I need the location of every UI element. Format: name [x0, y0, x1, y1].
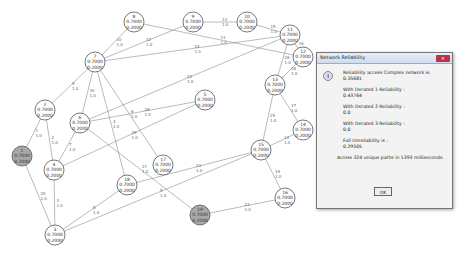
edge-weight-label: 1.0 [90, 93, 97, 98]
edge-weight-label: 1.0 [117, 42, 124, 47]
graph-node-8[interactable]: 80.70000.2000 [124, 12, 144, 32]
edge-weight-label: 1.0 [131, 114, 138, 119]
graph-node-2[interactable]: 20.70000.2000 [35, 100, 55, 120]
edge-weight-label: 1.0 [132, 135, 139, 140]
node-label: 14 [300, 122, 306, 127]
node-label: 6 [79, 115, 82, 120]
graph-edge[interactable]: 221.0 [80, 35, 290, 123]
graph-node-19[interactable]: 190.70000.2000 [190, 205, 210, 225]
node-label: 0.7000 [126, 19, 142, 24]
graph-node-7[interactable]: 70.70000.2000 [85, 52, 105, 72]
node-label: 12 [300, 49, 306, 54]
graph-node-16[interactable]: 160.70000.2000 [275, 188, 295, 208]
node-label: 0.2000 [46, 173, 62, 178]
graph-node-18[interactable]: 180.70000.2000 [117, 175, 137, 195]
edge-weight-label: 1.0 [187, 79, 194, 84]
summary-text: Across 324 unique paths in 1393 millisec… [337, 155, 448, 161]
graph-node-14[interactable]: 140.70000.2000 [293, 120, 313, 140]
edge-weight-label: 1.0 [52, 140, 59, 145]
graph-node-5[interactable]: 50.70000.2000 [195, 90, 215, 110]
node-label: 3 [54, 227, 57, 232]
node-label: 0.7000 [72, 120, 88, 125]
edge-weight-label: 1.0 [284, 140, 291, 145]
graph-node-11[interactable]: 110.70000.2000 [280, 25, 300, 45]
node-label: 0.2000 [295, 60, 311, 65]
node-label: 8 [133, 14, 136, 19]
info-icon: i [323, 71, 333, 81]
edge-weight-label: 1.0 [41, 196, 48, 201]
graph-edge[interactable]: 231.0 [127, 150, 261, 185]
graph-node-12[interactable]: 120.70000.2000 [293, 47, 313, 67]
node-label: 0.7000 [87, 59, 103, 64]
node-label: 0.7000 [253, 147, 269, 152]
graph-edge[interactable]: 281.0 [80, 100, 205, 123]
node-label: 0.2000 [37, 113, 53, 118]
edge-weight-label: 1.0 [93, 210, 100, 215]
graph-edge[interactable]: 211.0 [80, 123, 200, 215]
graph-edge[interactable]: 291.0 [54, 100, 205, 170]
node-label: 0.7000 [185, 19, 201, 24]
node-label: 0.2000 [253, 153, 269, 158]
node-label: 0.2000 [282, 38, 298, 43]
node-label: 0.2000 [155, 168, 171, 173]
node-label: 15 [258, 142, 264, 147]
node-label: 0.2000 [126, 25, 142, 30]
node-label: 5 [204, 92, 207, 97]
edge-weight-label: 1.0 [146, 42, 153, 47]
node-label: 11 [287, 27, 293, 32]
node-label: 0.2000 [14, 159, 30, 164]
graph-node-9[interactable]: 90.70000.2000 [183, 12, 203, 32]
graph-edge[interactable]: 231.0 [200, 198, 285, 215]
node-label: 7 [94, 54, 97, 59]
edge-weight-label: 1.0 [142, 169, 149, 174]
graph-edge[interactable]: 41.0 [95, 62, 127, 185]
graph-node-6[interactable]: 60.70000.2000 [70, 113, 90, 133]
graph-edge[interactable]: 61.0 [95, 62, 163, 165]
graph-edge[interactable]: 111.0 [134, 22, 303, 57]
node-label: 0.7000 [239, 19, 255, 24]
dialog-body: Reliability access Complex network is: 0… [343, 70, 448, 161]
node-label: 0.7000 [267, 82, 283, 87]
edge-weight-label: 1.0 [291, 108, 298, 113]
edge-weight-label: 1.0 [291, 71, 298, 76]
graph-edge[interactable]: 121.0 [95, 22, 193, 62]
node-label: 0.7000 [47, 232, 63, 237]
node-label: 16 [282, 190, 288, 195]
graph-node-4[interactable]: 40.70000.2000 [44, 160, 64, 180]
graph-node-15[interactable]: 150.70000.2000 [251, 140, 271, 160]
graph-node-1[interactable]: 10.70000.2000 [12, 146, 32, 166]
node-label: 0.2000 [192, 218, 208, 223]
graph-node-10[interactable]: 100.70000.2000 [237, 12, 257, 32]
graph-node-13[interactable]: 130.70000.2000 [265, 75, 285, 95]
ok-button[interactable]: OK [374, 187, 392, 196]
node-label: 0.2000 [295, 133, 311, 138]
edge-weight-label: 1.0 [113, 124, 120, 129]
edge-weight-label: 1.0 [245, 207, 252, 212]
node-label: 0.2000 [185, 25, 201, 30]
node-label: 19 [197, 207, 203, 212]
graph-node-17[interactable]: 170.70000.2000 [153, 155, 173, 175]
edge-weight-label: 1.0 [160, 193, 167, 198]
edge-weight-label: 1.0 [72, 86, 79, 91]
close-button[interactable]: ✕ [436, 55, 450, 62]
node-label: 18 [124, 177, 130, 182]
node-label: 0.2000 [119, 188, 135, 193]
node-label: 0.7000 [192, 212, 208, 217]
node-label: 0.2000 [47, 238, 63, 243]
node-label: 0.2000 [87, 65, 103, 70]
edge-weight-label: 1.0 [196, 168, 203, 173]
graph-node-3[interactable]: 30.70000.2000 [45, 225, 65, 245]
node-label: 0.2000 [277, 201, 293, 206]
node-label: 0.7000 [197, 97, 213, 102]
edge-weight-label: 1.0 [145, 112, 152, 117]
node-label: 0.2000 [239, 25, 255, 30]
node-label: 10 [244, 14, 250, 19]
network-reliability-dialog: Network Reliability ✕ i Reliability acce… [316, 52, 453, 209]
node-label: 2 [44, 102, 47, 107]
dialog-title-bar[interactable]: Network Reliability ✕ [317, 53, 452, 64]
node-label: 0.7000 [14, 153, 30, 158]
node-label: 0.7000 [277, 195, 293, 200]
node-label: 1 [21, 148, 24, 153]
edge-weight-label: 1.0 [57, 203, 64, 208]
edge-weight-label: 1.0 [195, 49, 202, 54]
